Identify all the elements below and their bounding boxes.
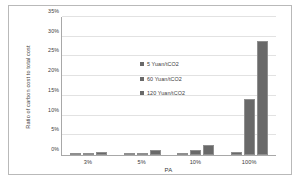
y-axis-tick-label: 10% <box>48 107 59 113</box>
bar <box>231 152 242 155</box>
y-axis-title-text: Ratio of carbon cost to total cost <box>25 45 31 128</box>
y-axis-tick-label: 20% <box>48 67 59 73</box>
bar <box>96 152 107 155</box>
y-axis-tick-label: 30% <box>48 28 59 34</box>
bar <box>177 153 188 155</box>
bar <box>150 150 161 155</box>
y-axis-tick-label: 15% <box>48 87 59 93</box>
legend-item: 5 Yuan/tCO2 <box>140 61 185 67</box>
y-axis-tick-label: 25% <box>48 47 59 53</box>
bar <box>244 99 255 155</box>
y-axis-tick-label: 35% <box>48 8 59 14</box>
legend-label: 5 Yuan/tCO2 <box>147 61 179 67</box>
x-axis-title: PA <box>61 167 276 173</box>
y-axis-tick-label: 0% <box>51 146 59 152</box>
bar <box>137 153 148 155</box>
legend-swatch <box>140 91 144 95</box>
legend-label: 60 Yuan/tCO2 <box>147 76 182 82</box>
plot-area: 0%5%10%15%20%25%30%35% 5 Yuan/tCO260 Yua… <box>61 17 276 156</box>
legend-item: 60 Yuan/tCO2 <box>140 76 185 82</box>
y-axis-tick-label: 5% <box>51 126 59 132</box>
bar-group <box>62 17 116 155</box>
bar <box>124 153 135 155</box>
bar <box>70 153 81 155</box>
bar <box>190 150 201 155</box>
legend-swatch <box>140 77 144 81</box>
chart-legend: 5 Yuan/tCO260 Yuan/tCO2120 Yuan/tCO2 <box>140 61 185 105</box>
legend-item: 120 Yuan/tCO2 <box>140 90 185 96</box>
bar <box>203 145 214 155</box>
y-axis-title: Ratio of carbon cost to total cost <box>23 17 33 156</box>
bar <box>257 41 268 155</box>
legend-label: 120 Yuan/tCO2 <box>147 90 185 96</box>
legend-swatch <box>140 62 144 66</box>
chart-figure: Ratio of carbon cost to total cost 0%5%1… <box>8 5 292 175</box>
bar <box>83 153 94 155</box>
bar-group <box>223 17 277 155</box>
